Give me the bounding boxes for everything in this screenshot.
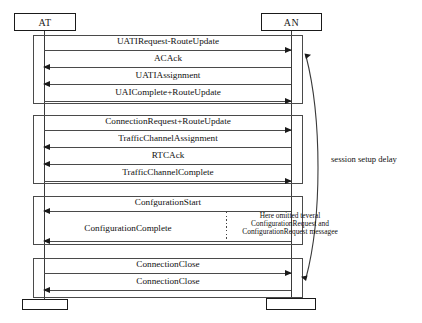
session-delay-curved-arrow: [306, 56, 318, 278]
message-label-connectionclose-1: ConnectionClose: [33, 259, 303, 269]
omitted-note-line-3: ConfigurationRequest messagee: [231, 228, 349, 236]
omitted-messages-ellipsis: [226, 212, 227, 241]
message-label-configurationcomplete: ConfigurationComplete: [33, 223, 223, 233]
participant-box-at[interactable]: AT: [14, 13, 76, 31]
sequence-diagram-canvas: AT AN UATIRequest-RouteUpdate ACAck UATI…: [0, 0, 422, 323]
message-label-trafficchannelassignment: TrafficChannelAssignment: [33, 133, 303, 143]
arrowhead-left-icon: [43, 208, 50, 214]
message-arrow-trafficchannelcomplete: [44, 181, 291, 182]
message-label-connectionrequest-routeupdate: ConnectionRequest+RouteUpdate: [33, 116, 303, 126]
arrowhead-left-icon: [43, 64, 50, 70]
arrowhead-right-icon: [285, 178, 292, 184]
participant-box-an[interactable]: AN: [261, 13, 322, 31]
arrowhead-left-icon: [43, 287, 50, 293]
message-label-confgurationstart: ConfgurationStart: [33, 197, 303, 207]
arrowhead-left-icon: [43, 144, 50, 150]
session-delay-label: session setup delay: [331, 154, 397, 164]
message-label-uaicomplete-routeupdate: UAIComplete+RouteUpdate: [33, 87, 303, 97]
message-arrow-configurationcomplete: [44, 241, 291, 242]
message-arrow-connectionrequest-routeupdate: [44, 130, 291, 131]
message-arrow-connectionclose-2: [44, 290, 291, 291]
message-label-acack: ACAck: [33, 53, 303, 63]
arrowhead-right-icon: [285, 127, 292, 133]
message-arrow-connectionclose-1: [44, 273, 291, 274]
arrowhead-right-icon: [285, 47, 292, 53]
arrowhead-right-icon: [285, 270, 292, 276]
terminator-box-at: [22, 299, 68, 310]
message-arrow-acack: [44, 67, 291, 68]
message-label-connectionclose-2: ConnectionClose: [33, 276, 303, 286]
message-arrow-trafficchannelassignment: [44, 147, 291, 148]
terminator-box-an: [266, 298, 316, 310]
participant-label-at: AT: [38, 17, 51, 28]
arrowhead-left-icon: [43, 238, 50, 244]
message-arrow-uaicomplete-routeupdate: [44, 101, 291, 102]
message-arrow-uatirequest-routeupdate: [44, 50, 291, 51]
participant-label-an: AN: [284, 17, 299, 28]
arrowhead-left-icon: [43, 161, 50, 167]
omitted-messages-note: Here omitted teveral ConfigurationReques…: [231, 212, 349, 237]
message-label-rtcack: RTCAck: [33, 150, 303, 160]
message-label-trafficchannelcomplete: TrafficChannelComplete: [33, 167, 303, 177]
arrowhead-right-icon: [285, 98, 292, 104]
message-label-uatiassignment: UATIAssignment: [33, 70, 303, 80]
message-arrow-uatiassignment: [44, 84, 291, 85]
message-arrow-rtcack: [44, 164, 291, 165]
message-label-uatirequest-routeupdate: UATIRequest-RouteUpdate: [33, 36, 303, 46]
arrowhead-left-icon: [43, 81, 50, 87]
